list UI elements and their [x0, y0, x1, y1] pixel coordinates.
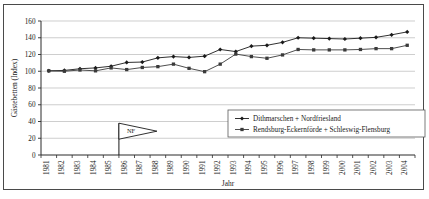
- x-axis-tick-label: 1996: [277, 160, 285, 175]
- data-point-marker: [328, 48, 331, 51]
- data-point-marker: [187, 55, 191, 59]
- data-point-marker: [156, 65, 159, 68]
- data-point-marker: [390, 47, 393, 50]
- x-axis-tick-label: 1987: [136, 160, 144, 175]
- data-point-marker: [265, 57, 268, 60]
- data-point-marker: [406, 44, 409, 47]
- data-point-marker: [405, 30, 409, 34]
- data-point-marker: [374, 35, 378, 39]
- data-point-marker: [374, 47, 377, 50]
- data-point-marker: [140, 60, 144, 64]
- series-line: [49, 45, 407, 71]
- y-axis-tick-label: 160: [25, 18, 36, 26]
- data-point-marker: [94, 69, 97, 72]
- x-axis-tick-label: 1994: [245, 160, 253, 175]
- data-series-group: [47, 30, 410, 74]
- x-axis-tick-label: 1989: [167, 160, 175, 175]
- data-point-marker: [265, 43, 269, 47]
- y-axis-tick-label: 40: [28, 118, 36, 126]
- x-axis-tick-label: 1991: [199, 160, 207, 175]
- x-axis-tick-label: 1985: [105, 160, 113, 175]
- x-axis-tick-label: 1998: [308, 160, 316, 175]
- data-point-marker: [327, 36, 331, 40]
- x-axis-tick-label: 1999: [323, 160, 331, 175]
- x-axis-tick-label: 2004: [401, 160, 409, 175]
- x-axis-tick-label: 2000: [339, 160, 347, 175]
- data-point-marker: [390, 33, 394, 37]
- data-point-marker: [280, 40, 284, 44]
- data-point-marker: [343, 48, 346, 51]
- x-axis-tick-label: 1982: [58, 160, 66, 175]
- x-axis-tick-label: 1988: [152, 160, 160, 175]
- data-point-marker: [203, 70, 206, 73]
- data-point-marker: [312, 48, 315, 51]
- data-point-marker: [171, 54, 175, 58]
- legend-label: Rendsburg-Eckernförde + Schleswig-Flensb…: [253, 126, 391, 134]
- data-point-marker: [47, 69, 50, 72]
- x-axis-tick-label: 2003: [386, 160, 394, 175]
- data-point-marker: [281, 53, 284, 56]
- y-axis-tick-label: 20: [28, 135, 36, 143]
- data-point-marker: [218, 47, 222, 51]
- y-axis-tick-label: 120: [25, 51, 36, 59]
- x-axis-tick-label: 1981: [43, 160, 51, 175]
- x-axis-tick-labels-group: 1981198219831984198519861987198819891990…: [43, 160, 409, 175]
- data-point-marker: [312, 36, 316, 40]
- data-point-marker: [219, 62, 222, 65]
- data-point-marker: [358, 36, 362, 40]
- x-axis-tick-label: 2002: [370, 160, 378, 175]
- y-axis-tick-label: 100: [25, 68, 36, 76]
- chart-legend: Dithmarschen + NordfrieslandRendsburg-Ec…: [228, 110, 425, 137]
- x-axis-tick-label: 1992: [214, 160, 222, 175]
- data-point-marker: [296, 36, 300, 40]
- flag-label: NF: [127, 127, 136, 134]
- data-point-marker: [125, 60, 129, 64]
- x-axis-tick-label: 1986: [121, 160, 129, 175]
- data-point-marker: [156, 56, 160, 60]
- data-point-marker: [78, 68, 81, 71]
- data-point-marker: [63, 70, 66, 73]
- data-point-marker: [240, 128, 243, 131]
- data-point-marker: [109, 66, 112, 69]
- x-axis-tick-label: 1984: [90, 160, 98, 175]
- chart-screenshot: 020406080100120140160 198119821983198419…: [0, 0, 429, 199]
- x-axis-tick-label: 1983: [74, 160, 82, 175]
- data-point-marker: [249, 44, 253, 48]
- y-axis-tick-labels-group: 020406080100120140160: [25, 18, 36, 160]
- x-axis-tick-label: 1995: [261, 160, 269, 175]
- annotations-group: NF: [119, 123, 157, 155]
- x-axis-tick-label: 1990: [183, 160, 191, 175]
- data-point-marker: [125, 68, 128, 71]
- pennant-flag-icon: [119, 123, 157, 139]
- data-point-marker: [359, 48, 362, 51]
- y-axis-tick-label: 140: [25, 34, 36, 42]
- x-axis-tick-label: 2001: [354, 160, 362, 175]
- x-axis-tick-label: 1993: [230, 160, 238, 175]
- y-axis-tick-label: 0: [32, 152, 36, 160]
- x-axis-tick-label: 1997: [292, 160, 300, 175]
- data-point-marker: [187, 67, 190, 70]
- y-axis-tick-label: 60: [28, 101, 36, 109]
- line-chart: 020406080100120140160 198119821983198419…: [0, 0, 429, 199]
- data-point-marker: [234, 52, 237, 55]
- data-series-2: [47, 44, 409, 74]
- data-point-marker: [250, 55, 253, 58]
- y-axis-tick-label: 80: [28, 85, 36, 93]
- data-series-1: [47, 30, 410, 73]
- data-point-marker: [296, 48, 299, 51]
- data-point-marker: [172, 62, 175, 65]
- data-point-marker: [141, 66, 144, 69]
- legend-label: Dithmarschen + Nordfriesland: [253, 115, 341, 123]
- x-axis-title: Jahr: [222, 179, 235, 188]
- y-axis-title: Gästebetten (Index): [10, 58, 19, 117]
